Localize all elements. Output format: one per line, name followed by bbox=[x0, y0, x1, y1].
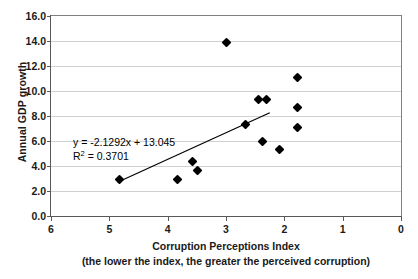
x-tick-label-4: 4 bbox=[153, 224, 183, 235]
x-tickmark bbox=[168, 216, 169, 221]
x-tickmark bbox=[51, 216, 52, 221]
y-tick-label-16.0: 16.0 bbox=[4, 11, 46, 21]
regression-equation: y = -2.1292x + 13.045 bbox=[73, 135, 175, 149]
x-axis-title: Corruption Perceptions Index bbox=[51, 240, 401, 253]
x-tickmark bbox=[343, 216, 344, 221]
x-tick-label-0: 0 bbox=[386, 224, 416, 235]
r-squared-value: R2 = 0.3701 bbox=[73, 149, 175, 163]
x-tick-label-6: 6 bbox=[36, 224, 66, 235]
y-tick-label-6.0: 6.0 bbox=[4, 136, 46, 146]
x-tick-label-3: 3 bbox=[211, 224, 241, 235]
r-squared-label: R bbox=[73, 150, 81, 162]
x-tickmark bbox=[109, 216, 110, 221]
x-tick-label-2: 2 bbox=[269, 224, 299, 235]
x-tickmark bbox=[226, 216, 227, 221]
y-axis-tick-labels: 0.02.04.06.08.010.012.014.016.0 bbox=[0, 0, 46, 279]
y-tick-label-12.0: 12.0 bbox=[4, 61, 46, 71]
y-tick-label-10.0: 10.0 bbox=[4, 86, 46, 96]
y-tick-label-4.0: 4.0 bbox=[4, 161, 46, 171]
trendline-equation-annotation: y = -2.1292x + 13.045 R2 = 0.3701 bbox=[73, 135, 175, 163]
y-tick-label-14.0: 14.0 bbox=[4, 36, 46, 46]
plot-area: y = -2.1292x + 13.045 R2 = 0.3701 bbox=[51, 16, 401, 216]
x-tickmark bbox=[284, 216, 285, 221]
x-tick-label-1: 1 bbox=[328, 224, 358, 235]
y-tick-label-2.0: 2.0 bbox=[4, 186, 46, 196]
r-squared-number: = 0.3701 bbox=[85, 150, 129, 162]
x-axis-subtitle: (the lower the index, the greater the pe… bbox=[31, 255, 418, 268]
x-tickmark bbox=[401, 216, 402, 221]
plot-frame-right bbox=[401, 15, 402, 217]
y-tick-label-8.0: 8.0 bbox=[4, 111, 46, 121]
scatter-chart: Annual GDP growth 0.02.04.06.08.010.012.… bbox=[0, 0, 418, 279]
x-tick-label-5: 5 bbox=[94, 224, 124, 235]
y-tick-label-0.0: 0.0 bbox=[4, 211, 46, 221]
